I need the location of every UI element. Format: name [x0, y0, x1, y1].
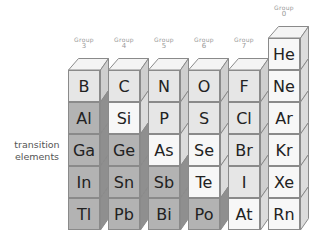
group-label-4: Group4 [108, 36, 140, 50]
element-cell-br: Br [228, 134, 260, 166]
element-cell-pb: Pb [108, 198, 140, 230]
group-word: Group [268, 4, 300, 11]
group-number: 6 [188, 43, 220, 50]
group-word: Group [108, 36, 140, 43]
element-cell-xe: Xe [268, 166, 300, 198]
element-cell-kr: Kr [268, 134, 300, 166]
element-cell-b: B [68, 70, 100, 102]
element-cell-as: As [148, 134, 180, 166]
element-cell-in: In [68, 166, 100, 198]
group-number: 5 [148, 43, 180, 50]
element-cell-cl: Cl [228, 102, 260, 134]
element-cell-n: N [148, 70, 180, 102]
element-cell-ne: Ne [268, 70, 300, 102]
group-label-0: Group0 [268, 4, 300, 18]
element-cell-ge: Ge [108, 134, 140, 166]
element-cell-f: F [228, 70, 260, 102]
element-cell-se: Se [188, 134, 220, 166]
group-label-7: Group7 [228, 36, 260, 50]
group-number: 4 [108, 43, 140, 50]
element-cell-te: Te [188, 166, 220, 198]
element-cell-si: Si [108, 102, 140, 134]
side-label-line2: elements [0, 151, 74, 163]
element-cell-i: I [228, 166, 260, 198]
group-word: Group [148, 36, 180, 43]
group-word: Group [68, 36, 100, 43]
element-cell-po: Po [188, 198, 220, 230]
element-cell-s: S [188, 102, 220, 134]
element-cell-c: C [108, 70, 140, 102]
group-label-5: Group5 [148, 36, 180, 50]
element-cell-ga: Ga [68, 134, 100, 166]
element-cell-al: Al [68, 102, 100, 134]
element-cell-at: At [228, 198, 260, 230]
group-number: 0 [268, 11, 300, 18]
element-cell-bi: Bi [148, 198, 180, 230]
element-cell-rn: Rn [268, 198, 300, 230]
group-label-3: Group3 [68, 36, 100, 50]
group-word: Group [228, 36, 260, 43]
element-cell-p: P [148, 102, 180, 134]
element-cell-sb: Sb [148, 166, 180, 198]
element-cell-ar: Ar [268, 102, 300, 134]
element-cell-he: He [268, 38, 300, 70]
element-cell-tl: Tl [68, 198, 100, 230]
side-label-line1: transition [0, 139, 74, 151]
side-label-transition-elements: transition elements [0, 139, 74, 163]
group-number: 3 [68, 43, 100, 50]
element-cell-o: O [188, 70, 220, 102]
group-number: 7 [228, 43, 260, 50]
group-word: Group [188, 36, 220, 43]
element-cell-sn: Sn [108, 166, 140, 198]
group-label-6: Group6 [188, 36, 220, 50]
